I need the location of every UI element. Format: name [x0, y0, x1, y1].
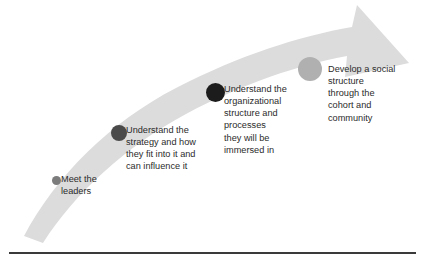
stage-marker-dot-icon — [111, 125, 127, 141]
stage-develop-a-social-structure[interactable]: Develop a social structure through the c… — [298, 57, 414, 124]
stage-understand-the-organizational-structure[interactable]: Understand the organizational structure … — [206, 82, 302, 156]
stage-label: Understand the organizational structure … — [224, 83, 302, 156]
diagram-canvas: Meet the leaders Understand the strategy… — [0, 0, 425, 256]
stage-meet-the-leaders[interactable]: Meet the leaders — [52, 174, 125, 197]
stage-marker-dot-icon — [206, 83, 225, 102]
stage-label: Meet the leaders — [61, 173, 125, 197]
stage-label: Understand the strategy and how they fit… — [126, 124, 218, 173]
stage-label: Develop a social structure through the c… — [328, 63, 414, 124]
footer-divider — [9, 252, 416, 254]
stage-marker-dot-icon — [298, 57, 322, 81]
stage-marker-dot-icon — [52, 176, 61, 185]
stage-understand-the-strategy[interactable]: Understand the strategy and how they fit… — [111, 124, 218, 173]
